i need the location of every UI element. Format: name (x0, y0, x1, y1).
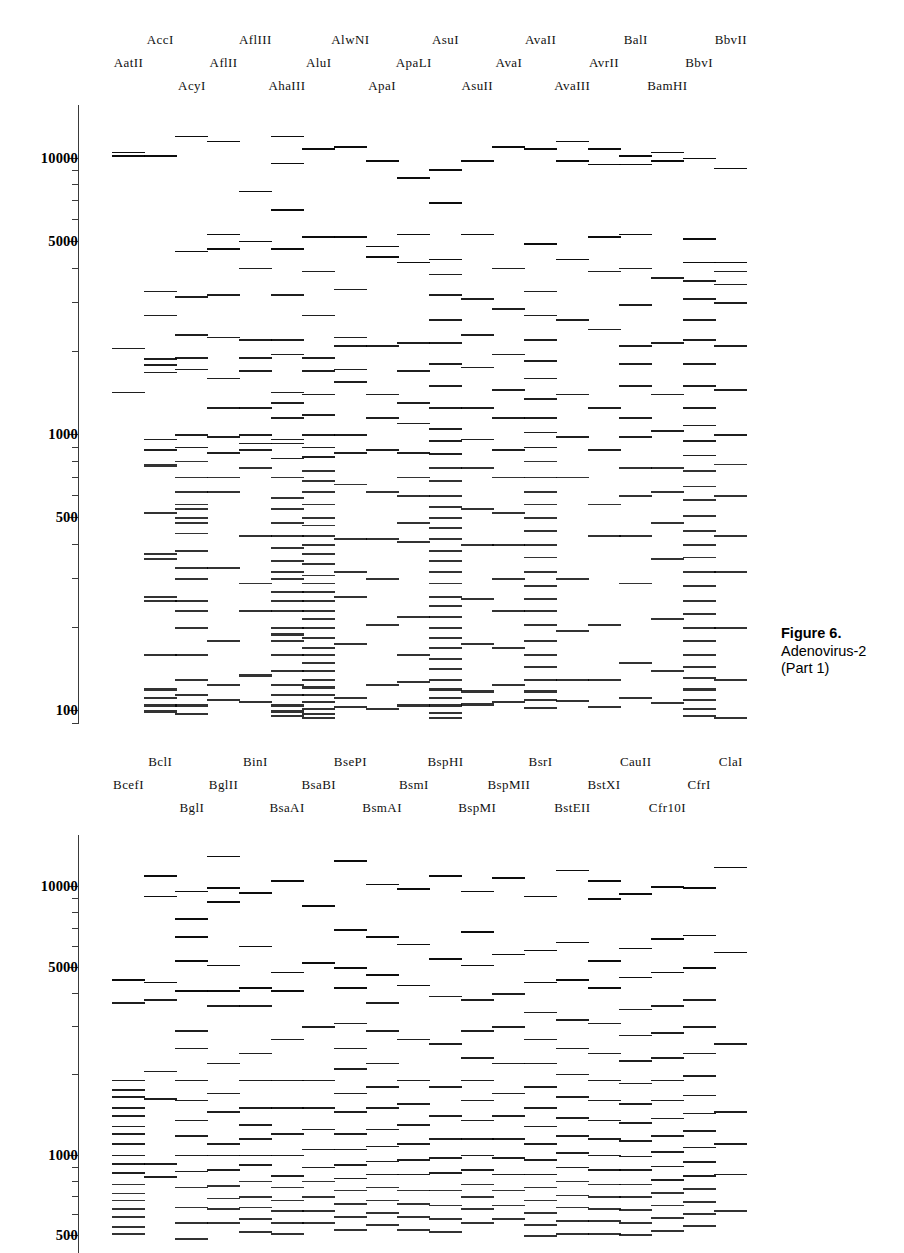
gel-band (334, 967, 367, 969)
gel-band (619, 1140, 652, 1142)
enzyme-label-bsteii: BstEII (554, 800, 590, 816)
gel-band (429, 440, 462, 442)
gel-band (429, 688, 462, 690)
gel-band (302, 357, 335, 359)
axis-tick-label-100: 100 (56, 702, 78, 719)
gel-band (429, 506, 462, 508)
gel-band (271, 1175, 304, 1177)
gel-band (492, 578, 525, 580)
gel-band (619, 363, 652, 365)
gel-band (619, 1222, 652, 1224)
gel-band (492, 993, 525, 995)
gel-band (651, 342, 684, 344)
enzyme-label-ahaiii: AhaIII (268, 78, 305, 94)
gel-band (714, 627, 747, 629)
gel-band (619, 697, 652, 699)
gel-band (271, 1155, 304, 1157)
gel-band (492, 417, 525, 419)
gel-band (429, 658, 462, 660)
gel-band (144, 291, 177, 293)
gel-band (175, 1048, 208, 1050)
gel-band (429, 1205, 462, 1207)
gel-band (683, 999, 716, 1001)
gel-lane-alwni (334, 105, 367, 723)
gel-band (429, 616, 462, 618)
gel-band (334, 1093, 367, 1095)
gel-band (334, 1190, 367, 1192)
gel-band (271, 684, 304, 686)
gel-band (239, 1138, 272, 1140)
gel-band (271, 880, 304, 882)
gel-band (366, 1086, 399, 1088)
gel-band (144, 710, 177, 712)
gel-band (492, 1174, 525, 1176)
gel-band (461, 1208, 494, 1210)
gel-band (683, 1213, 716, 1215)
gel-band (175, 461, 208, 463)
gel-band (144, 315, 177, 317)
gel-band (492, 877, 525, 879)
enzyme-label-header-lower: BclIBinIBsePIBspHIBsrICauIIClaIBcefIBglI… (0, 754, 760, 826)
gel-band (619, 583, 652, 585)
gel-band (397, 616, 430, 618)
gel-band (397, 1124, 430, 1126)
gel-lane-aatii (112, 105, 145, 723)
gel-lane-bspmii (492, 835, 525, 1253)
gel-band (302, 627, 335, 629)
gel-band (588, 407, 621, 409)
gel-band (556, 679, 589, 681)
gel-band (619, 1035, 652, 1037)
gel-band (683, 1201, 716, 1203)
gel-band (397, 654, 430, 656)
gel-band (271, 591, 304, 593)
gel-band (366, 1212, 399, 1214)
gel-lane-bbvi (683, 105, 716, 723)
enzyme-label-bstxi: BstXI (587, 777, 620, 793)
gel-band (556, 1195, 589, 1197)
gel-band (112, 1226, 145, 1228)
gel-band (429, 697, 462, 699)
gel-band (588, 1023, 621, 1025)
gel-band (239, 1231, 272, 1233)
gel-band (112, 1080, 145, 1082)
gel-band (175, 679, 208, 681)
gel-band (429, 996, 462, 998)
enzyme-label-apai: ApaI (368, 78, 396, 94)
gel-band (429, 1157, 462, 1159)
gel-band (334, 1178, 367, 1180)
gel-band (302, 717, 335, 719)
gel-lane-bgli (175, 835, 208, 1253)
gel-band (302, 525, 335, 527)
gel-band (207, 378, 240, 380)
gel-band (239, 1005, 272, 1007)
gel-band (144, 982, 177, 984)
gel-band (619, 436, 652, 438)
gel-band (683, 715, 716, 717)
gel-band (144, 1163, 177, 1165)
caption-title: Figure 6. (781, 625, 901, 643)
gel-band (334, 452, 367, 454)
gel-band (524, 291, 557, 293)
gel-lane-ahaiii (271, 105, 304, 723)
enzyme-label-bini: BinI (243, 754, 268, 770)
gel-band (144, 688, 177, 690)
gel-band (207, 407, 240, 409)
gel-band (714, 1143, 747, 1145)
gel-band (144, 155, 177, 157)
gel-band (207, 990, 240, 992)
gel-band (492, 1026, 525, 1028)
gel-band (588, 898, 621, 900)
gel-band (302, 148, 335, 150)
gel-band (112, 1155, 145, 1157)
gel-band (302, 610, 335, 612)
gel-band (524, 1107, 557, 1109)
gel-band (651, 1135, 684, 1137)
gel-band (619, 1009, 652, 1011)
gel-band (651, 1179, 684, 1181)
gel-band (524, 640, 557, 642)
gel-band (239, 892, 272, 894)
axis-tick-label-1000: 1000 (48, 1146, 78, 1163)
gel-band (524, 504, 557, 506)
gel-band (524, 339, 557, 341)
gel-band (683, 407, 716, 409)
